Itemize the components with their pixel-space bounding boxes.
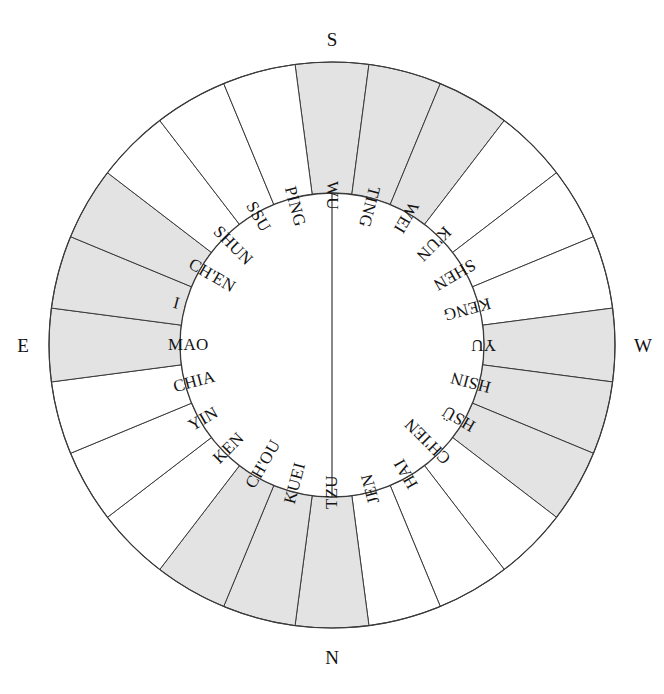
cardinal-south: S	[0, 30, 664, 49]
sector-label: WU	[322, 181, 342, 210]
cardinal-north: N	[0, 648, 664, 667]
sector-label: YU	[471, 335, 496, 355]
sector-label: MAO	[168, 335, 209, 355]
cardinal-west: W	[628, 336, 658, 355]
cardinal-east: E	[8, 336, 38, 355]
diagram-canvas: WUTINGWEIK'UNSHENKENGYUHSINHSÜCH'IENHAIJ…	[0, 0, 664, 694]
sector-label: TZU	[322, 475, 342, 509]
compass-dial-svg	[0, 0, 664, 694]
